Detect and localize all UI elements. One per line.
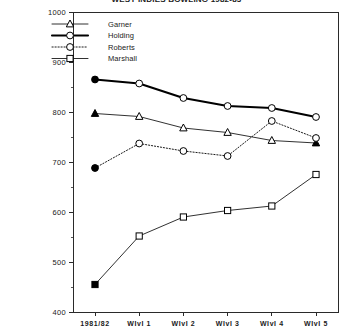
line-chart-plot: 40050060070080090010001981/82WIvI 1WIvI … xyxy=(0,0,353,335)
legend-label: Roberts xyxy=(108,43,135,52)
data-point xyxy=(268,118,275,125)
data-point xyxy=(225,207,231,213)
data-point xyxy=(180,95,187,102)
legend-marker-circle-icon xyxy=(67,44,74,51)
legend-item-garner: Garner xyxy=(52,20,132,29)
data-point xyxy=(136,80,143,87)
data-point xyxy=(136,140,143,147)
series-line xyxy=(95,80,316,118)
data-point xyxy=(180,214,186,220)
y-axis-tick-label: 900 xyxy=(53,58,66,67)
data-point xyxy=(313,114,320,121)
data-point xyxy=(136,233,142,239)
y-axis-tick-label: 700 xyxy=(53,158,66,167)
y-axis-tick-label: 400 xyxy=(53,308,66,317)
series-holding xyxy=(92,76,320,120)
legend-marker-circle-icon xyxy=(67,32,74,39)
y-axis-tick-label: 1000 xyxy=(48,8,66,17)
series-line xyxy=(95,114,316,144)
data-point xyxy=(313,171,319,177)
y-axis-tick-label: 600 xyxy=(53,208,66,217)
y-axis-tick-label: 800 xyxy=(53,108,66,117)
data-point xyxy=(180,148,187,155)
legend-label: Marshall xyxy=(108,54,137,63)
series-garner xyxy=(91,110,319,146)
data-point xyxy=(92,76,99,83)
x-axis-tick-label: WIvI 4 xyxy=(260,320,284,327)
data-point xyxy=(91,110,98,117)
data-point xyxy=(224,153,231,160)
data-point xyxy=(92,165,99,172)
legend-item-roberts: Roberts xyxy=(52,43,135,52)
x-axis-tick-label: 1981/82 xyxy=(80,320,110,327)
legend-layer: GarnerHoldingRobertsMarshall xyxy=(52,20,137,64)
legend-label: Garner xyxy=(108,20,132,29)
series-line xyxy=(95,175,316,285)
data-point xyxy=(268,105,275,112)
x-axis-tick-label: WIvI 1 xyxy=(127,320,151,327)
x-axis-tick-label: WIvI 5 xyxy=(304,320,328,327)
y-axis-tick-label: 500 xyxy=(53,258,66,267)
legend-item-holding: Holding xyxy=(52,31,134,40)
series-layer xyxy=(91,76,319,288)
legend-label: Holding xyxy=(108,31,134,40)
data-point xyxy=(269,203,275,209)
x-axis-tick-label: WIvI 3 xyxy=(216,320,240,327)
data-point xyxy=(313,135,320,142)
legend-marker-square-icon xyxy=(67,55,73,61)
series-roberts xyxy=(92,118,320,172)
data-point xyxy=(224,103,231,110)
series-line xyxy=(95,121,316,168)
x-axis-tick-label: WIvI 2 xyxy=(171,320,195,327)
chart-container: WEST INDIES BOWLING 1982-83 400500600700… xyxy=(0,0,353,335)
series-marshall xyxy=(92,171,319,287)
data-point xyxy=(92,281,98,287)
